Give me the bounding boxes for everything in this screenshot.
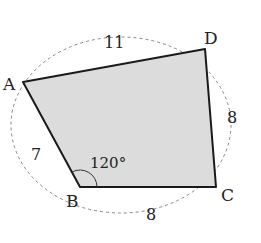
side-label-ab: 7 [31,145,41,164]
vertex-label-c: C [221,185,234,205]
vertex-label-d: D [204,28,218,48]
side-label-ad: 11 [104,33,124,52]
vertex-label-b: B [66,191,79,211]
quadrilateral-diagram: A B C D 11 8 7 8 120° [0,0,261,243]
diagram-canvas: A B C D 11 8 7 8 120° [0,0,261,243]
side-label-dc: 8 [227,108,237,127]
vertex-label-a: A [2,74,16,94]
angle-label-b: 120° [90,154,126,172]
side-label-bc: 8 [146,205,156,224]
